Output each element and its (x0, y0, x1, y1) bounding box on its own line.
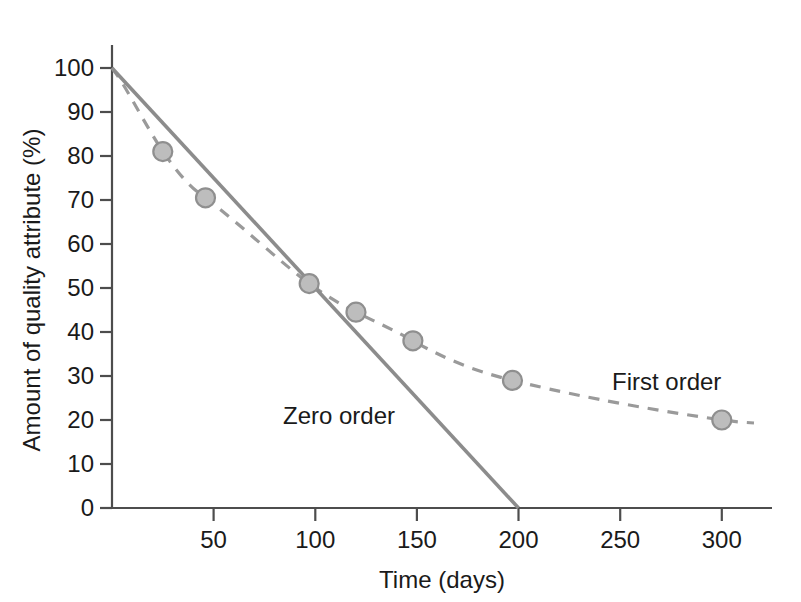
y-tick-label-30: 30 (67, 362, 94, 389)
data-point-marker (153, 142, 172, 161)
x-tick-label-250: 250 (600, 526, 640, 553)
y-tick-label-60: 60 (67, 230, 94, 257)
y-tick-label-90: 90 (67, 98, 94, 125)
data-point-marker (503, 371, 522, 390)
y-tick-label-80: 80 (67, 142, 94, 169)
y-tick-label-40: 40 (67, 318, 94, 345)
y-axis-title: Amount of quality attribute (%) (18, 129, 45, 452)
chart-canvas: 0 10 20 30 40 50 60 70 80 90 100 50 100 … (0, 0, 801, 602)
x-tick-label-150: 150 (397, 526, 437, 553)
x-tick-label-300: 300 (702, 526, 742, 553)
data-point-marker (712, 411, 731, 430)
y-tick-label-50: 50 (67, 274, 94, 301)
y-tick-label-20: 20 (67, 406, 94, 433)
data-point-marker (403, 331, 422, 350)
x-tick-label-100: 100 (295, 526, 335, 553)
x-axis-title: Time (days) (379, 566, 505, 593)
zero-order-annotation: Zero order (283, 402, 395, 429)
data-point-marker (347, 303, 366, 322)
y-tick-label-0: 0 (81, 494, 94, 521)
chart-background (0, 0, 801, 602)
data-point-marker (196, 188, 215, 207)
data-point-marker (300, 274, 319, 293)
first-order-annotation: First order (612, 368, 721, 395)
x-tick-label-200: 200 (498, 526, 538, 553)
y-tick-label-70: 70 (67, 186, 94, 213)
x-tick-label-50: 50 (200, 526, 227, 553)
y-tick-label-10: 10 (67, 450, 94, 477)
y-tick-label-100: 100 (54, 54, 94, 81)
chart-figure: 0 10 20 30 40 50 60 70 80 90 100 50 100 … (0, 0, 801, 602)
